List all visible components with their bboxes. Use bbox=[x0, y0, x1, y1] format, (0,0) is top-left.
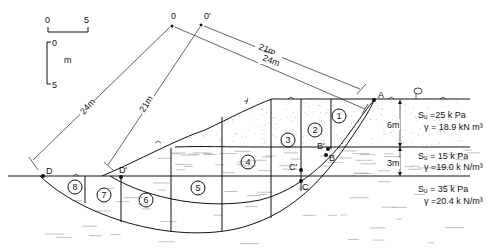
stipple-dot bbox=[381, 114, 382, 115]
scale-bar: 0 5 0 m 5 bbox=[45, 15, 89, 90]
stipple-dot bbox=[334, 112, 335, 113]
stipple-dot bbox=[345, 114, 346, 115]
stipple-dot bbox=[444, 132, 445, 133]
stipple-dot bbox=[249, 131, 250, 132]
stipple-dot bbox=[390, 102, 391, 103]
scale-v-bar bbox=[47, 42, 51, 84]
stipple-dot bbox=[202, 135, 203, 136]
stipple-dot bbox=[453, 144, 454, 145]
stipple-dot bbox=[423, 134, 424, 135]
stipple-dot bbox=[325, 113, 326, 114]
stipple-dot bbox=[264, 141, 265, 142]
stipple-dot bbox=[346, 104, 347, 105]
stipple-dot bbox=[353, 111, 354, 112]
stipple-dot bbox=[265, 125, 266, 126]
stipple-dot bbox=[354, 128, 355, 129]
stipple-dot bbox=[395, 116, 396, 117]
radius-tick-d bbox=[29, 157, 38, 170]
stipple-dot bbox=[290, 116, 291, 117]
stipple-dot bbox=[345, 142, 346, 143]
stipple-dot bbox=[402, 136, 403, 137]
stipple-dot bbox=[235, 133, 236, 134]
stipple-dot bbox=[378, 124, 379, 125]
stipple-dot bbox=[229, 123, 230, 124]
stipple-dot bbox=[289, 103, 290, 104]
stipple-dot bbox=[201, 145, 202, 146]
stipple-dot bbox=[329, 120, 330, 121]
stipple-dot bbox=[412, 142, 413, 143]
stipple-dot bbox=[439, 143, 440, 144]
layer-properties: Sᵤ =25 k Pa γ = 18.9 kN m³ Sᵤ = 15 k Pa … bbox=[418, 110, 483, 206]
stipple-dot bbox=[382, 115, 383, 116]
scale-v-end: 5 bbox=[52, 80, 57, 90]
slice-label-5: 5 bbox=[195, 183, 200, 193]
stipple-dot bbox=[370, 118, 371, 119]
stipple-dot bbox=[232, 121, 233, 122]
point-c-label: C bbox=[302, 182, 309, 192]
stipple-dot bbox=[327, 112, 328, 113]
stipple-dot bbox=[303, 143, 304, 144]
stipple-dot bbox=[390, 132, 391, 133]
stipple-dot bbox=[273, 135, 274, 136]
stipple-dot bbox=[254, 125, 255, 126]
stipple-dot bbox=[332, 126, 333, 127]
stipple-dot bbox=[296, 134, 297, 135]
stipple-dot bbox=[204, 136, 205, 137]
stipple-dot bbox=[236, 134, 237, 135]
stipple-dot bbox=[272, 117, 273, 118]
stipple-dot bbox=[342, 120, 343, 121]
stipple-dot bbox=[224, 145, 225, 146]
stipple-dot bbox=[274, 127, 275, 128]
middle-layer-su: Sᵤ = 15 k Pa bbox=[418, 151, 468, 161]
stipple-dot bbox=[413, 133, 414, 134]
point-c-prime-marker bbox=[299, 168, 303, 172]
stipple-dot bbox=[403, 142, 404, 143]
radius-tick-a1 bbox=[357, 84, 366, 94]
tree-icon bbox=[414, 88, 422, 99]
point-b-prime-marker bbox=[326, 147, 330, 151]
stipple-dot bbox=[228, 122, 229, 123]
stipple-dot bbox=[276, 136, 277, 137]
bottom-layer-su: Sᵤ = 35 k Pa bbox=[418, 184, 468, 194]
stipple-dot bbox=[268, 123, 269, 124]
point-d-prime-label: D' bbox=[119, 165, 127, 175]
stipple-dot bbox=[272, 144, 273, 145]
stipple-dot bbox=[304, 113, 305, 114]
stipple-dot bbox=[233, 137, 234, 138]
stipple-dot bbox=[405, 111, 406, 112]
stipple-dot bbox=[439, 120, 440, 121]
stipple-dot bbox=[246, 145, 247, 146]
stipple-dot bbox=[365, 107, 366, 108]
stipple-dot bbox=[376, 119, 377, 120]
stipple-dot bbox=[216, 134, 217, 135]
stipple-dot bbox=[358, 131, 359, 132]
point-c-prime-label: C' bbox=[289, 162, 297, 172]
stipple-dot bbox=[413, 108, 414, 109]
slice-label-7: 7 bbox=[101, 190, 106, 200]
stipple-dot bbox=[376, 102, 377, 103]
stipple-dot bbox=[232, 141, 233, 142]
scale-v-start: 0 bbox=[52, 38, 57, 48]
slope-stability-diagram: 0 5 0 m 5 1 2 3 bbox=[0, 0, 501, 251]
stipple-dot bbox=[307, 114, 308, 115]
stipple-dot bbox=[302, 142, 303, 143]
stipple-dot bbox=[443, 106, 444, 107]
point-a-marker bbox=[372, 98, 376, 102]
stipple-dot bbox=[382, 109, 383, 110]
stipple-dot bbox=[366, 104, 367, 105]
stipple-dot bbox=[325, 109, 326, 110]
stipple-dot bbox=[287, 117, 288, 118]
stipple-dot bbox=[308, 124, 309, 125]
stipple-dot bbox=[305, 103, 306, 104]
stipple-dot bbox=[334, 133, 335, 134]
stipple-dot bbox=[322, 134, 323, 135]
stipple-dot bbox=[320, 112, 321, 113]
stipple-dot bbox=[351, 115, 352, 116]
center-o-prime-label: 0' bbox=[204, 11, 211, 21]
stipple-dot bbox=[427, 108, 428, 109]
stipple-dot bbox=[281, 119, 282, 120]
slice-label-4: 4 bbox=[245, 157, 250, 167]
stipple-dot bbox=[227, 120, 228, 121]
stipple-dot bbox=[401, 140, 402, 141]
stipple-dot bbox=[284, 142, 285, 143]
